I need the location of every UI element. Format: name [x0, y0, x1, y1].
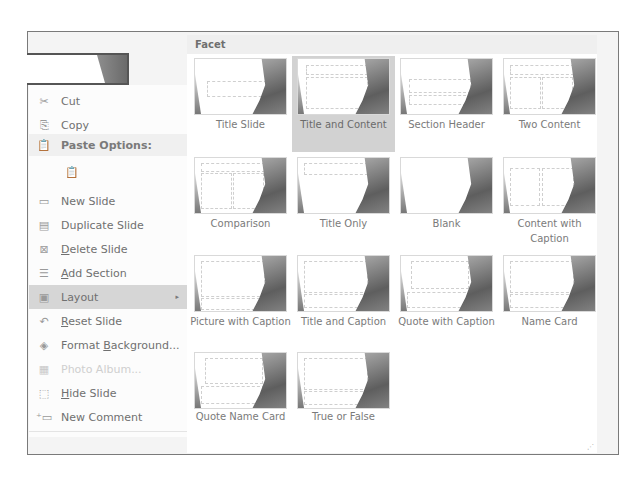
layout-label: Name Card [498, 314, 601, 329]
layout-thumbnail [297, 352, 390, 409]
layout-thumbnail [194, 157, 287, 214]
layout-label: True or False [292, 409, 395, 424]
menu-item-hide-slide[interactable]: ⬚ Hide Slide [29, 381, 187, 405]
layout-label: Quote with Caption [395, 314, 498, 329]
menu-item-label: Delete Slide [61, 243, 128, 256]
submenu-arrow-icon: ▸ [175, 293, 179, 301]
menu-item-label: New Slide [61, 195, 115, 208]
layout-label: Comparison [189, 216, 292, 231]
layout-label: Title and Content [292, 117, 395, 132]
layout-tile-title-only[interactable]: Title Only [292, 155, 395, 251]
reset-slide-icon: ↶ [37, 314, 51, 328]
layout-thumbnail [297, 157, 390, 214]
gallery-theme-header: Facet [187, 35, 597, 54]
menu-item-label: Reset Slide [61, 315, 122, 328]
layout-tile-picture-with-caption[interactable]: Picture with Caption [189, 253, 292, 349]
slide-thumbnail[interactable] [27, 53, 129, 85]
layout-tile-title-slide[interactable]: Title Slide [189, 56, 292, 152]
menu-item-new-slide[interactable]: ▭ New Slide [29, 189, 187, 213]
menu-item-format-background[interactable]: ◈ Format Background... [29, 333, 187, 357]
menu-item-label: Duplicate Slide [61, 219, 144, 232]
layout-thumbnail [503, 157, 596, 214]
menu-item-label: Add Section [61, 267, 127, 280]
scissors-icon: ✂ [37, 94, 51, 108]
menu-item-label: Copy [61, 119, 89, 132]
resize-grip-icon[interactable]: ⋰ [587, 443, 593, 449]
menu-item-label: Layout [61, 291, 98, 304]
layout-tile-title-and-caption[interactable]: Title and Caption [292, 253, 395, 349]
layout-label: Title Only [292, 216, 395, 231]
slide-thumbnail-decoration [87, 55, 127, 83]
layout-thumbnail [400, 255, 493, 312]
layout-label: Picture with Caption [189, 314, 292, 329]
layout-tile-content-with-caption[interactable]: Content with Caption [498, 155, 601, 251]
menu-item-layout[interactable]: ▣ Layout ▸ [29, 285, 187, 309]
menu-item-duplicate-slide[interactable]: ▤ Duplicate Slide [29, 213, 187, 237]
photo-album-icon: ▦ [37, 362, 51, 376]
layout-label: Section Header [395, 117, 498, 132]
duplicate-slide-icon: ▤ [37, 218, 51, 232]
menu-item-new-comment[interactable]: ⁺▭ New Comment [29, 405, 187, 429]
menu-item-label: Paste Options: [61, 139, 152, 152]
menu-item-photo-album: ▦ Photo Album... [29, 357, 187, 381]
hide-slide-icon: ⬚ [37, 386, 51, 400]
menu-item-delete-slide[interactable]: ⊠ Delete Slide [29, 237, 187, 261]
layout-tile-comparison[interactable]: Comparison [189, 155, 292, 251]
layout-label: Content with Caption [498, 216, 601, 246]
paste-icon: 📋 [37, 138, 51, 152]
layout-tile-two-content[interactable]: Two Content [498, 56, 601, 152]
layout-thumbnail [297, 255, 390, 312]
layout-thumbnail [503, 58, 596, 115]
menu-item-label: New Comment [61, 411, 142, 424]
layout-thumbnail [297, 58, 390, 115]
paste-option-keep-formatting[interactable]: 📋 [29, 159, 187, 185]
layout-thumbnail [194, 58, 287, 115]
delete-slide-icon: ⊠ [37, 242, 51, 256]
paste-keep-formatting-icon: 📋 [65, 165, 79, 179]
menu-item-cut[interactable]: ✂ Cut [29, 89, 187, 113]
menu-item-paste-options: 📋 Paste Options: [29, 134, 187, 156]
menu-item-label: Photo Album... [61, 363, 142, 376]
menu-item-add-section[interactable]: ☰ Add Section [29, 261, 187, 285]
menu-item-label: Hide Slide [61, 387, 116, 400]
layout-label: Quote Name Card [189, 409, 292, 424]
layout-icon: ▣ [37, 290, 51, 304]
layout-label: Title and Caption [292, 314, 395, 329]
context-menu: ✂ Cut ⎘ Copy 📋 Paste Options: 📋 ▭ New Sl… [29, 85, 188, 437]
layout-thumbnail [400, 58, 493, 115]
format-background-icon: ◈ [37, 338, 51, 352]
layout-tile-quote-name-card[interactable]: Quote Name Card [189, 350, 292, 446]
menu-item-label: Format Background... [61, 339, 179, 352]
layout-tile-name-card[interactable]: Name Card [498, 253, 601, 349]
layout-tile-true-or-false[interactable]: True or False [292, 350, 395, 446]
layout-thumbnail [400, 157, 493, 214]
layout-thumbnail [503, 255, 596, 312]
add-section-icon: ☰ [37, 266, 51, 280]
new-slide-icon: ▭ [37, 194, 51, 208]
layout-tile-quote-with-caption[interactable]: Quote with Caption [395, 253, 498, 349]
layout-label: Two Content [498, 117, 601, 132]
copy-icon: ⎘ [37, 118, 51, 132]
layout-thumbnail [194, 352, 287, 409]
layout-label: Title Slide [189, 117, 292, 132]
menu-item-label: Cut [61, 95, 80, 108]
new-comment-icon: ⁺▭ [37, 410, 51, 424]
layout-tile-section-header[interactable]: Section Header [395, 56, 498, 152]
layout-gallery: Facet Title Slide Title and Content Sect… [187, 35, 597, 453]
menu-item-reset-slide[interactable]: ↶ Reset Slide [29, 309, 187, 333]
layout-thumbnail [194, 255, 287, 312]
layout-label: Blank [395, 216, 498, 231]
layout-tile-blank[interactable]: Blank [395, 155, 498, 251]
layout-tile-title-and-content[interactable]: Title and Content [292, 56, 395, 152]
menu-divider [29, 431, 187, 432]
